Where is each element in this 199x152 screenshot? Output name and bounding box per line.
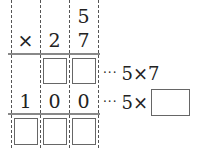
annotation-row-2: ··· 5× (103, 89, 148, 115)
multiply-sign: × (11, 26, 40, 54)
answer-box-partial1-ones[interactable] (72, 58, 96, 84)
ellipsis: ··· (103, 95, 117, 109)
multiplier-digit: 2 (40, 26, 69, 54)
answer-box-multiplier[interactable] (151, 89, 190, 116)
answer-box-result-tens[interactable] (43, 118, 67, 145)
annotation-text: 5×7 (121, 63, 159, 84)
annotation-text: 5× (121, 92, 148, 113)
answer-box-result-ones[interactable] (72, 118, 96, 145)
partial-digit: 0 (69, 87, 98, 115)
result-line (8, 113, 100, 115)
column-divider (40, 0, 41, 148)
partial-digit: 1 (11, 87, 40, 115)
sum-line (8, 53, 100, 55)
annotation-row-1: ··· 5×7 (103, 60, 159, 86)
multiplier-digit: 7 (69, 26, 98, 54)
ellipsis: ··· (103, 66, 117, 80)
answer-box-partial1-tens[interactable] (43, 58, 67, 84)
answer-box-result-hundreds[interactable] (14, 118, 38, 145)
column-divider (98, 0, 99, 148)
column-divider (11, 0, 12, 148)
partial-digit: 0 (40, 87, 69, 115)
